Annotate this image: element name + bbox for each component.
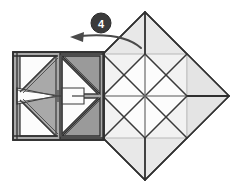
step-badge: 4 xyxy=(91,13,111,33)
origami-diagram-canvas: 4 xyxy=(0,0,247,188)
origami-figure: 4 xyxy=(0,0,247,188)
step-badge-label: 4 xyxy=(98,18,105,30)
fold-left-arrow-head xyxy=(70,32,84,42)
left-square-group xyxy=(13,52,104,140)
